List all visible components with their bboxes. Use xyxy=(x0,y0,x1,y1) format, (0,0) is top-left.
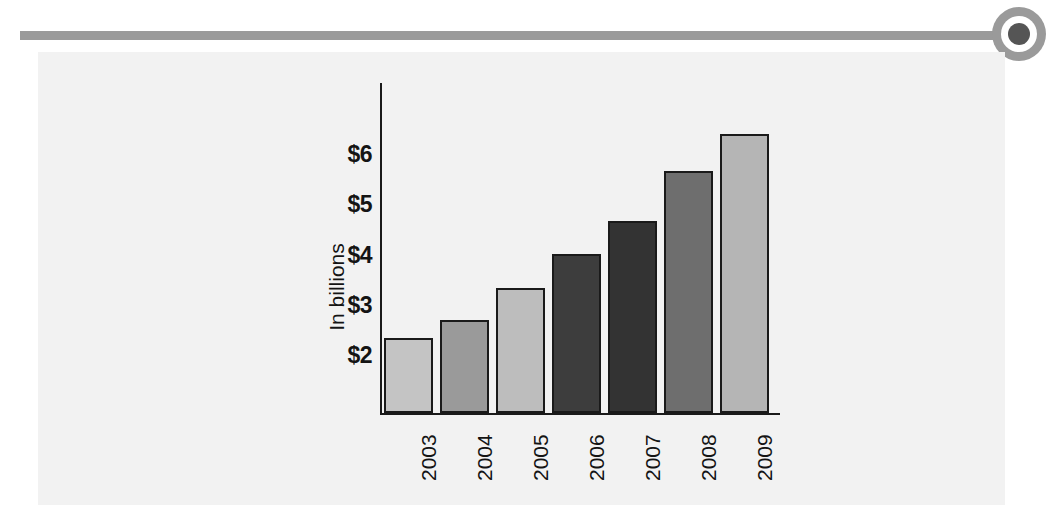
x-axis-tick-label-2005: 2005 xyxy=(529,434,553,481)
bar-2008[interactable] xyxy=(664,171,713,413)
y-axis-title: In billions xyxy=(325,207,349,367)
y-axis-title-wrap: In billions xyxy=(310,142,364,382)
bar-2005[interactable] xyxy=(496,288,545,413)
bar-chart-plot-area: $2$3$4$5$6 In billions 20032004200520062… xyxy=(38,52,1005,505)
x-axis-line xyxy=(380,413,780,415)
x-axis-tick-label-2009: 2009 xyxy=(753,434,777,481)
bar-2003[interactable] xyxy=(384,338,433,413)
bullet-center-dot xyxy=(1008,23,1030,45)
bar-2006[interactable] xyxy=(552,254,601,413)
x-axis-tick-label-2004: 2004 xyxy=(473,434,497,481)
bar-2007[interactable] xyxy=(608,221,657,413)
y-axis-line xyxy=(380,83,382,413)
x-axis-tick-label-2008: 2008 xyxy=(697,434,721,481)
bar-2004[interactable] xyxy=(440,320,489,413)
header-divider-rule xyxy=(20,31,1012,40)
x-axis-tick-label-2006: 2006 xyxy=(585,434,609,481)
x-axis-tick-label-2003: 2003 xyxy=(417,434,441,481)
chart-panel: $2$3$4$5$6 In billions 20032004200520062… xyxy=(38,52,1005,505)
bar-2009[interactable] xyxy=(720,134,769,413)
x-axis-tick-label-2007: 2007 xyxy=(641,434,665,481)
